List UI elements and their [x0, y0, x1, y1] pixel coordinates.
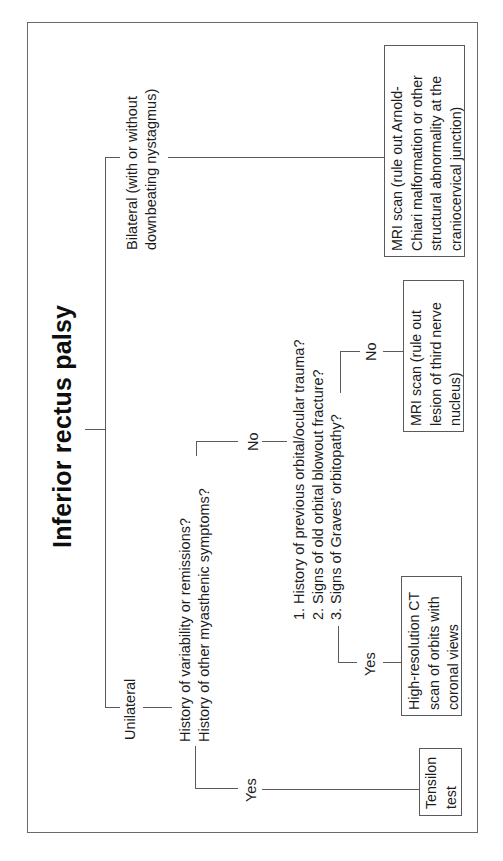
bilateral-connector: [168, 157, 384, 158]
orbital-questions-list: 1. History of previous orbital/ocular tr…: [290, 340, 346, 620]
mri-no-connector-b: [383, 351, 403, 352]
unilateral-label: Unilateral: [121, 679, 140, 740]
bilateral-label-line1: Bilateral (with or without: [123, 89, 142, 250]
bilateral-label: Bilateral (with or without downbeating n…: [123, 89, 160, 250]
myasthenia-question: History of variability or remissions? Hi…: [176, 488, 213, 742]
ct-line2: scan of orbits with: [425, 581, 445, 710]
mri-craniocervical-box: MRI scan (rule out Arnold- Chiari malfor…: [384, 45, 465, 257]
mri-third-nerve-line3: nucleus): [446, 285, 466, 426]
main-trunk: [105, 157, 106, 708]
myasthenia-question-line1: History of variability or remissions?: [176, 488, 195, 742]
mri-no-connector-a: [340, 351, 360, 352]
ct-yes-label: Yes: [362, 652, 378, 676]
ct-yes-connector-a: [338, 662, 357, 663]
ct-yes-stem: [338, 626, 339, 663]
no-branch-1-label: No: [245, 432, 261, 451]
myasthenia-question-line2: History of other myasthenic symptoms?: [195, 488, 214, 742]
title-connector: [85, 429, 105, 430]
mri-third-nerve-line2: lesion of third nerve: [427, 285, 447, 426]
tensilon-line1: Tensilon: [422, 753, 442, 809]
orbital-question-2: 2. Signs of old orbital blowout fracture…: [309, 340, 328, 620]
flowchart-canvas: Inferior rectus palsy Bilateral (with or…: [0, 0, 503, 861]
mri-third-nerve-line1: MRI scan (rule out: [407, 285, 427, 426]
ct-yes-connector-b: [383, 662, 401, 663]
mri-third-nerve-box: MRI scan (rule out lesion of third nerve…: [403, 280, 464, 432]
no-branch-1-connector-b: [262, 441, 287, 442]
mri-craniocervical-line3: structural abnormality at the: [427, 50, 447, 251]
bilateral-label-line2: downbeating nystagmus): [142, 89, 161, 250]
tensilon-yes-stem: [195, 746, 196, 789]
ct-line3: coronal views: [444, 581, 464, 710]
no-branch-1-connector-a: [196, 441, 238, 442]
ct-line1: High-resolution CT: [405, 581, 425, 710]
unilateral-connector: [143, 707, 172, 708]
tensilon-yes-connector-a: [195, 788, 238, 789]
ct-orbits-box: High-resolution CT scan of orbits with c…: [401, 576, 462, 716]
no-branch-1-stem: [196, 442, 197, 456]
unilateral-connector-stub: [105, 707, 120, 708]
tensilon-test-box: Tensilon test: [419, 748, 462, 816]
orbital-question-1: 1. History of previous orbital/ocular tr…: [290, 340, 309, 620]
mri-no-label: No: [363, 342, 379, 361]
tensilon-yes-label: Yes: [243, 778, 259, 802]
orbital-question-3: 3. Signs of Graves’ orbitopathy?: [327, 340, 346, 620]
mri-no-stem: [340, 352, 341, 393]
tensilon-line2: test: [442, 753, 462, 809]
mri-craniocervical-line1: MRI scan (rule out Arnold-: [388, 50, 408, 251]
bilateral-connector-stub: [105, 157, 120, 158]
mri-craniocervical-line2: Chiari malformation or other: [408, 50, 428, 251]
tensilon-yes-connector-b: [262, 789, 419, 790]
diagram-title: Inferior rectus palsy: [48, 305, 76, 548]
mri-craniocervical-line4: craniocervical junction): [447, 50, 467, 251]
